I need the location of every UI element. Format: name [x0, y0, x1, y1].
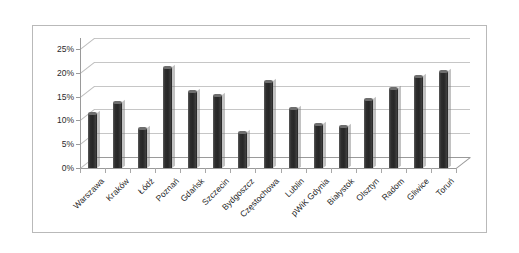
bar-side-shadow	[273, 79, 276, 168]
value-axis-tick-mark	[76, 97, 80, 98]
bar-top-cap	[414, 75, 423, 78]
bar-side-shadow	[122, 100, 125, 168]
category-tick	[306, 168, 307, 173]
category-label: Olsztyn	[354, 176, 381, 203]
category-tick	[80, 168, 81, 173]
category-tick	[456, 168, 457, 173]
bar-side-shadow	[172, 64, 175, 168]
category-label: Kraków	[104, 176, 131, 203]
category-tick	[230, 168, 231, 173]
value-axis-tick-mark	[76, 120, 80, 121]
bar	[213, 96, 222, 168]
bar	[264, 82, 273, 168]
value-axis-tick-label: 25%	[57, 44, 74, 54]
category-axis	[80, 168, 456, 169]
bar-side-shadow	[398, 85, 401, 168]
bar-top-cap	[439, 70, 448, 73]
category-tick	[281, 168, 282, 173]
gridline	[94, 62, 470, 63]
category-tick	[381, 168, 382, 173]
bar-top-cap	[264, 80, 273, 83]
category-label: Warszawa	[71, 176, 106, 211]
bar-side-shadow	[348, 123, 351, 168]
value-axis-tick-label: 0%	[62, 163, 74, 173]
category-label-text: Toruń	[434, 176, 456, 198]
bar-top-cap	[314, 123, 323, 126]
bar	[113, 103, 122, 168]
bar	[414, 77, 423, 168]
bar-side-shadow	[147, 126, 150, 168]
category-label-text: Olsztyn	[354, 176, 381, 203]
bar	[364, 100, 373, 168]
category-tick	[331, 168, 332, 173]
category-tick	[180, 168, 181, 173]
bar	[88, 114, 97, 168]
category-label-text: Kraków	[104, 176, 131, 203]
category-tick	[205, 168, 206, 173]
bar-side-shadow	[247, 129, 250, 168]
category-label-text: Gliwice	[405, 176, 431, 202]
bar-side-shadow	[373, 97, 376, 168]
category-label-text: Łódź	[136, 176, 156, 196]
value-axis-tick-mark	[76, 144, 80, 145]
bar-top-cap	[163, 66, 172, 69]
bar	[439, 72, 448, 168]
category-label-text: Poznań	[153, 176, 180, 203]
bar-top-cap	[339, 125, 348, 128]
value-axis-tick-label: 10%	[57, 115, 74, 125]
category-label-text: Warszawa	[71, 176, 106, 211]
value-axis	[80, 38, 81, 168]
category-label: Gliwice	[405, 176, 431, 202]
bar-top-cap	[213, 94, 222, 97]
gridline-connector	[80, 38, 95, 50]
category-tick	[406, 168, 407, 173]
gridline-connector	[80, 86, 95, 98]
value-axis-tick-mark	[76, 49, 80, 50]
category-label: Łódź	[136, 176, 156, 196]
bar-top-cap	[289, 107, 298, 110]
chart-frame: 0%5%10%15%20%25% WarszawaKrakówŁódźPozna…	[32, 25, 487, 233]
gridline-connector	[80, 62, 95, 74]
bar	[138, 129, 147, 168]
gridline	[94, 38, 470, 39]
value-axis-tick-label: 5%	[62, 139, 74, 149]
category-tick	[356, 168, 357, 173]
bar-side-shadow	[97, 111, 100, 168]
category-tick	[130, 168, 131, 173]
bar-side-shadow	[222, 92, 225, 168]
category-tick	[431, 168, 432, 173]
plot-area: 0%5%10%15%20%25% WarszawaKrakówŁódźPozna…	[80, 38, 470, 168]
category-label: Radom	[380, 176, 406, 202]
bar-side-shadow	[323, 122, 326, 168]
bar	[188, 92, 197, 168]
value-axis-tick-mark	[76, 73, 80, 74]
bar-side-shadow	[448, 69, 451, 168]
bar-top-cap	[364, 98, 373, 101]
bar	[289, 109, 298, 169]
bar-top-cap	[188, 90, 197, 93]
bar-top-cap	[138, 127, 147, 130]
bar-side-shadow	[298, 105, 301, 168]
category-label: Poznań	[153, 176, 180, 203]
category-tick	[255, 168, 256, 173]
bar	[314, 125, 323, 168]
bar	[339, 127, 348, 168]
category-label: Toruń	[434, 176, 456, 198]
bar	[163, 68, 172, 168]
bar-top-cap	[389, 87, 398, 90]
value-axis-tick-label: 15%	[57, 92, 74, 102]
category-tick	[105, 168, 106, 173]
bar	[238, 133, 247, 168]
bar	[389, 89, 398, 168]
bar-top-cap	[88, 112, 97, 115]
bar-top-cap	[113, 101, 122, 104]
bar-side-shadow	[423, 73, 426, 168]
category-tick	[155, 168, 156, 173]
floor-right-edge	[456, 157, 471, 169]
category-label-text: Radom	[380, 176, 406, 202]
value-axis-tick-label: 20%	[57, 68, 74, 78]
bar-side-shadow	[197, 88, 200, 168]
